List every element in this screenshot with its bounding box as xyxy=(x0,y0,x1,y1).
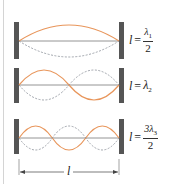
label-var: l xyxy=(129,79,132,94)
denominator: 2 xyxy=(145,42,151,54)
numerator-subscript: 3 xyxy=(153,129,157,137)
label-mode-1: l = λ1 2 xyxy=(129,27,153,54)
panel-mode-2 xyxy=(14,68,124,103)
dimension-label: l xyxy=(64,164,73,179)
arrow-right-icon xyxy=(113,170,118,174)
value: λ2 xyxy=(143,78,152,94)
numerator-subscript: 1 xyxy=(148,32,152,40)
left-wall xyxy=(14,68,19,103)
label-eq: = xyxy=(134,79,141,94)
label-mode-2: l = λ2 xyxy=(129,78,152,94)
wave-solid xyxy=(19,25,119,41)
arrow-left-icon xyxy=(20,170,25,174)
left-wall xyxy=(14,119,19,154)
right-wall xyxy=(119,119,124,154)
fraction: λ1 2 xyxy=(143,27,153,54)
label-var: l xyxy=(129,130,132,145)
numerator: λ1 xyxy=(143,27,153,42)
right-wall xyxy=(119,68,124,103)
label-mode-3: l = 3λ3 2 xyxy=(129,124,158,151)
denominator: 2 xyxy=(148,139,154,151)
fraction: 3λ3 2 xyxy=(143,124,158,151)
panel-mode-3 xyxy=(14,119,124,154)
wave-dashed xyxy=(19,41,119,57)
right-wall xyxy=(119,22,124,59)
numerator: 3λ3 xyxy=(143,124,158,139)
panel-mode-1 xyxy=(14,22,124,59)
label-eq: = xyxy=(134,130,141,145)
label-var: l xyxy=(129,33,132,48)
label-eq: = xyxy=(134,33,141,48)
left-wall xyxy=(14,22,19,59)
value-subscript: 2 xyxy=(148,86,152,94)
